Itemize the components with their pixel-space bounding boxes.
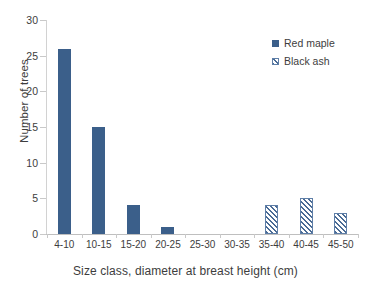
y-tick-label: 25 [4, 50, 38, 61]
bar-red-maple-10-15[interactable] [92, 127, 105, 234]
y-tick-mark [40, 163, 46, 164]
legend-item-black-ash[interactable]: Black ash [272, 52, 335, 70]
bar-black-ash-45-50[interactable] [334, 213, 347, 234]
y-tick-mark [40, 91, 46, 92]
x-axis-line [46, 234, 359, 235]
bar-black-ash-40-45[interactable] [300, 198, 313, 234]
x-tick-mark [323, 234, 324, 238]
x-tick-mark [185, 234, 186, 238]
bar-black-ash-35-40[interactable] [265, 205, 278, 234]
bar-red-maple-20-25[interactable] [161, 227, 174, 234]
bar-chart: Number of trees 051015202530 4-1010-1515… [0, 0, 371, 289]
y-tick-label: 5 [4, 193, 38, 204]
x-tick-mark [254, 234, 255, 238]
chart-legend: Red maple Black ash [272, 34, 335, 70]
y-tick-mark [40, 56, 46, 57]
x-tick-mark [47, 234, 48, 238]
bar-red-maple-4-10[interactable] [58, 49, 71, 234]
legend-swatch-black-ash [272, 58, 279, 65]
y-tick-label: 15 [4, 122, 38, 133]
y-tick-mark [40, 127, 46, 128]
y-tick-label: 0 [4, 229, 38, 240]
x-tick-mark [82, 234, 83, 238]
x-tick-mark [358, 234, 359, 238]
legend-swatch-red-maple [272, 40, 279, 47]
x-tick-label: 45-50 [318, 239, 364, 250]
y-tick-mark [40, 20, 46, 21]
y-tick-mark [40, 234, 46, 235]
y-tick-mark [40, 198, 46, 199]
y-tick-label: 20 [4, 86, 38, 97]
x-axis-title: Size class, diameter at breast height (c… [0, 264, 371, 278]
x-tick-mark [151, 234, 152, 238]
legend-label-black-ash: Black ash [284, 55, 330, 67]
legend-item-red-maple[interactable]: Red maple [272, 34, 335, 52]
y-tick-label: 10 [4, 157, 38, 168]
bar-red-maple-15-20[interactable] [127, 205, 140, 234]
x-tick-mark [116, 234, 117, 238]
y-tick-label: 30 [4, 15, 38, 26]
x-tick-mark [220, 234, 221, 238]
x-tick-mark [289, 234, 290, 238]
legend-label-red-maple: Red maple [284, 37, 335, 49]
